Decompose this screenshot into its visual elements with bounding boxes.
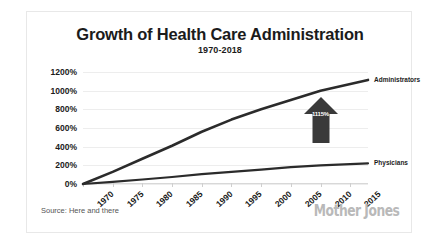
source-note: Source: Here and there: [41, 206, 119, 215]
y-axis-tick-label: 200%: [55, 160, 77, 170]
y-axis-tick-label: 1200%: [51, 67, 77, 77]
growth-arrow-value: 1115%: [304, 111, 338, 117]
chart-card: Growth of Health Care Administration 197…: [26, 11, 412, 233]
y-axis-tick-label: 800%: [55, 104, 77, 114]
chart-page: Growth of Health Care Administration 197…: [0, 0, 433, 244]
plot-area: 0%200%400%600%800%1000%1200% 19701975198…: [83, 72, 368, 184]
x-axis-tick-label: 2000: [273, 189, 294, 209]
series-label-administrators: Administrators: [374, 76, 420, 83]
y-axis-tick-label: 1000%: [51, 86, 77, 96]
x-axis-tick-label: 1980: [154, 189, 175, 209]
series-label-physicians: Physicians: [374, 159, 408, 166]
x-axis-tick-label: 1975: [125, 189, 146, 209]
x-axis-tick-label: 1990: [214, 189, 235, 209]
chart-subtitle: 1970-2018: [27, 45, 413, 55]
y-axis-tick-label: 600%: [55, 123, 77, 133]
x-axis-tick-label: 1985: [184, 189, 205, 209]
growth-arrow: 1115%: [304, 97, 338, 143]
up-arrow-icon: [304, 97, 338, 143]
chart-title: Growth of Health Care Administration: [27, 25, 413, 44]
publisher-logo: Mother Jones: [313, 202, 399, 220]
y-axis-tick-label: 0%: [65, 179, 77, 189]
y-axis-tick-label: 400%: [55, 142, 77, 152]
x-axis-tick-label: 1995: [243, 189, 264, 209]
gridline: [83, 184, 368, 185]
